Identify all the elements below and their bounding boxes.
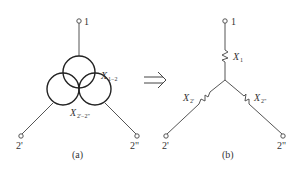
- branch-x2p: [167, 80, 225, 134]
- terminal-2p-b: [164, 134, 168, 138]
- label-x2p-sub: 2': [190, 98, 194, 104]
- label-x22-sub: 2'−2": [77, 113, 90, 119]
- terminal-label-1-a: 1: [84, 16, 89, 27]
- label-x22: X 2'−2": [69, 107, 90, 119]
- transformer-equivalent-diagram: 1 2' 2" X 1−2 X 2'−2" (a) 1 2' 2" X 1 X …: [0, 0, 300, 171]
- terminal-label-2pp-b: 2": [277, 140, 286, 151]
- label-x1-sub: 1: [240, 57, 243, 63]
- diagram-a: [19, 19, 139, 138]
- caption-a: (a): [72, 149, 83, 161]
- terminal-label-1-b: 1: [231, 16, 236, 27]
- label-x12-main: X: [100, 70, 108, 81]
- terminal-1-b: [223, 19, 227, 23]
- label-x2pp: X 2": [253, 92, 267, 104]
- terminal-1-a: [77, 19, 81, 23]
- label-x2p-main: X: [182, 92, 190, 103]
- label-x1: X 1: [232, 51, 243, 63]
- label-x2p: X 2': [182, 92, 194, 104]
- label-x12: X 1−2: [100, 70, 117, 82]
- label-x2pp-sub: 2": [261, 98, 267, 104]
- label-x12-sub: 1−2: [108, 76, 117, 82]
- terminal-2pp-a: [135, 134, 139, 138]
- terminal-label-2pp-a: 2": [130, 140, 139, 151]
- lead-2pp-a: [105, 103, 136, 134]
- label-x2pp-main: X: [253, 92, 261, 103]
- winding-circle-top: [63, 56, 95, 88]
- branch-x2pp: [225, 80, 282, 134]
- lead-2p-a: [22, 103, 53, 134]
- terminal-2p-a: [19, 134, 23, 138]
- winding-circle-left: [47, 73, 79, 105]
- implies-arrow-icon: [144, 72, 166, 88]
- diagram-b: [164, 19, 285, 138]
- terminal-2pp-b: [281, 134, 285, 138]
- label-x1-main: X: [232, 51, 240, 62]
- label-x22-main: X: [69, 107, 77, 118]
- branch-x1: [222, 23, 228, 80]
- caption-b: (b): [222, 149, 234, 161]
- terminal-label-2p-b: 2': [162, 140, 169, 151]
- terminal-label-2p-a: 2': [16, 140, 23, 151]
